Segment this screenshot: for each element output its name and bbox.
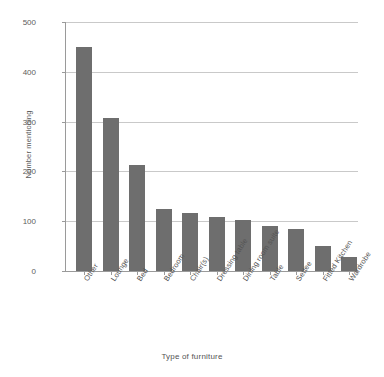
y-tick-label: 0 [0, 267, 36, 276]
y-axis-title: Number mentioning [24, 75, 33, 215]
bar [156, 209, 172, 271]
plot-area: 0100200300400500 OtherLoungeBedBedroomCh… [65, 22, 358, 271]
y-tick-label: 400 [0, 67, 36, 76]
x-axis-line [65, 271, 358, 272]
bar [209, 217, 225, 271]
bar-chart: Number mentioning 0100200300400500 Other… [0, 0, 384, 377]
y-tick-label: 100 [0, 217, 36, 226]
bar [182, 213, 198, 271]
y-tick-mark [62, 271, 65, 272]
bar [129, 165, 145, 271]
bar [76, 47, 92, 271]
y-tick-label: 300 [0, 117, 36, 126]
y-tick-label: 200 [0, 167, 36, 176]
y-tick-label: 500 [0, 18, 36, 27]
x-axis-title: Type of furniture [0, 352, 384, 361]
bar [103, 118, 119, 271]
bars-layer [65, 22, 358, 271]
